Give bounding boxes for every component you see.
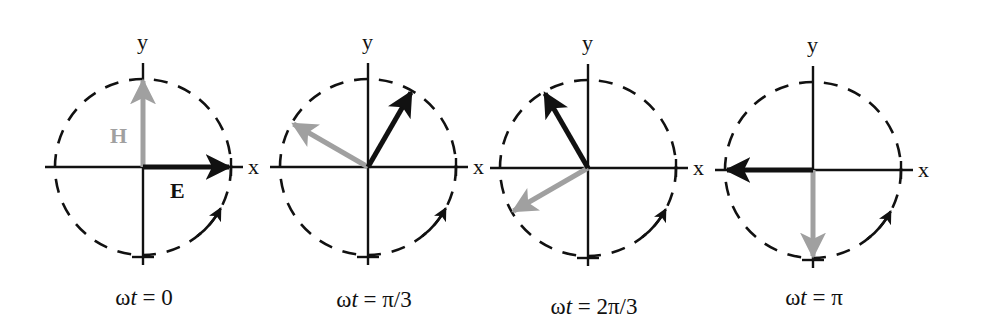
rotation-direction-arrow-icon bbox=[197, 208, 221, 236]
polarization-diagram: xyHEωt = 0xyωt = π/3xyωt = 2π/3xyωt = π bbox=[0, 0, 982, 330]
h-field-vector bbox=[514, 168, 589, 211]
y-axis-label: y bbox=[362, 29, 373, 54]
rotation-direction-arrow-icon bbox=[867, 211, 891, 239]
x-axis-label: x bbox=[918, 157, 929, 182]
panel-3: xyωt = π bbox=[715, 32, 929, 310]
phase-caption: ωt = 2π/3 bbox=[550, 294, 637, 319]
phase-caption: ωt = π bbox=[785, 285, 843, 310]
h-field-vector bbox=[294, 124, 369, 167]
phase-caption: ωt = 0 bbox=[115, 285, 173, 310]
e-field-vector bbox=[368, 93, 411, 168]
h-vector-label: H bbox=[110, 123, 127, 148]
x-axis-label: x bbox=[473, 154, 484, 179]
y-axis-label: y bbox=[137, 29, 148, 54]
panel-1: xyωt = π/3 bbox=[270, 29, 484, 312]
panel-2: xyωt = 2π/3 bbox=[490, 30, 704, 319]
e-field-vector bbox=[545, 94, 588, 169]
y-axis-label: y bbox=[582, 30, 593, 55]
phase-caption: ωt = π/3 bbox=[336, 287, 412, 312]
rotation-direction-arrow-icon bbox=[642, 209, 666, 237]
y-axis-label: y bbox=[807, 32, 818, 57]
e-vector-label: E bbox=[170, 178, 185, 203]
rotation-direction-arrow-icon bbox=[422, 208, 446, 236]
panel-0: xyHEωt = 0 bbox=[45, 29, 259, 310]
x-axis-label: x bbox=[248, 154, 259, 179]
x-axis-label: x bbox=[693, 155, 704, 180]
